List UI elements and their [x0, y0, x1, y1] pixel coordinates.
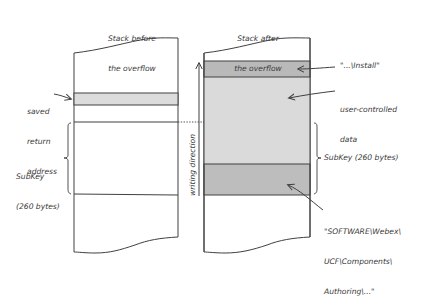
user-controlled-data-label: user-controlled data — [340, 85, 397, 155]
software-path-block — [204, 164, 310, 195]
user-data-line1: user-controlled — [340, 105, 397, 115]
left-title-line1: Stack before — [102, 34, 162, 44]
left-stack-title: Stack before the overflow — [102, 14, 162, 84]
software-line2: UCF\Components\ — [324, 257, 401, 267]
left-title-line2: the overflow — [102, 64, 162, 74]
left-subkey-line2: (260 bytes) — [16, 202, 60, 212]
saved-return-line1: saved — [27, 107, 57, 117]
right-title-line2: the overflow — [228, 64, 288, 74]
software-path-label: "SOFTWARE\Webex\ UCF\Components\ Authori… — [324, 207, 401, 300]
left-subkey-label: SubKey (260 bytes) — [16, 152, 60, 222]
saved-return-address-block — [74, 93, 178, 105]
install-label: "...\Install" — [340, 61, 380, 71]
right-subkey-brace — [314, 123, 321, 194]
software-line1: "SOFTWARE\Webex\ — [324, 227, 401, 237]
right-stack-title: Stack after the overflow — [228, 14, 288, 84]
right-subkey-label: SubKey (260 bytes) — [324, 153, 399, 163]
saved-return-line2: return — [27, 137, 57, 147]
user-controlled-data-block — [204, 77, 310, 164]
left-subkey-line1: SubKey — [16, 172, 60, 182]
right-title-line1: Stack after — [228, 34, 288, 44]
software-line3: Authoring\..." — [324, 287, 401, 297]
user-data-line2: data — [340, 135, 397, 145]
left-subkey-brace — [64, 123, 71, 194]
writing-direction-label: writing direction — [188, 134, 197, 196]
